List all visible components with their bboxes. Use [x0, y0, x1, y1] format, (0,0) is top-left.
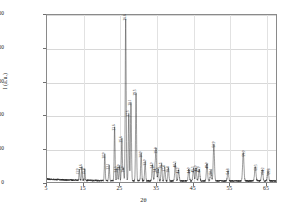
peak-label: 30.9: [140, 151, 144, 157]
peak-label: 32.0: [144, 159, 148, 165]
peak-label: 40.3: [174, 161, 178, 167]
x-tick-mark: [156, 183, 157, 186]
peak-label: 50.1: [210, 168, 214, 174]
peak-label: 35.0: [155, 147, 159, 153]
peak-label: 20.9: [103, 152, 107, 158]
peak-label: 29.5: [135, 89, 139, 95]
y-tick-mark: [43, 149, 46, 150]
peak-label: 22.1: [108, 163, 112, 169]
peak-label: 23.6: [113, 125, 117, 131]
peak-label: 50.9: [213, 141, 217, 147]
xrd-pattern-trace: [47, 15, 276, 182]
y-tick-mark: [43, 48, 46, 49]
y-axis-title: I (a.u.): [2, 50, 8, 112]
peak-label: 26.0: [122, 166, 126, 172]
y-tick-label: 0: [0, 180, 4, 185]
peak-label: 27.5: [128, 111, 132, 117]
y-tick-mark: [43, 82, 46, 83]
y-tick-label: 1000000: [0, 112, 4, 117]
x-tick-mark: [229, 183, 230, 186]
peak-label: 64.2: [262, 168, 266, 174]
peak-label: 59.0: [243, 151, 247, 157]
x-tick-mark: [193, 183, 194, 186]
peak-label: 62.3: [255, 164, 259, 170]
peak-label: 41.2: [178, 168, 182, 174]
peak-label: 49.0: [206, 162, 210, 168]
peak-label: 65.8: [268, 169, 272, 175]
peak-label: 26.6: [124, 15, 128, 21]
y-tick-mark: [43, 14, 46, 15]
x-tick-mark: [119, 183, 120, 186]
peak-label: 38.4: [168, 166, 172, 172]
peak-label: 28.1: [130, 99, 134, 105]
y-tick-label: 2500000: [0, 11, 4, 16]
peak-label: 54.8: [228, 169, 232, 175]
x-tick-mark: [266, 183, 267, 186]
peak-label: 46.9: [199, 167, 203, 173]
xrd-chart-figure: 13.914.615.420.922.123.624.324.925.626.0…: [0, 0, 287, 212]
x-tick-mark: [46, 183, 47, 186]
peak-label: 25.6: [121, 136, 125, 142]
x-tick-mark: [83, 183, 84, 186]
y-tick-label: 500000: [0, 146, 4, 151]
plot-area: 13.914.615.420.922.123.624.324.925.626.0…: [46, 14, 277, 183]
y-tick-mark: [43, 115, 46, 116]
x-axis-title: 2θ: [0, 197, 287, 204]
peak-label: 15.4: [83, 168, 87, 174]
